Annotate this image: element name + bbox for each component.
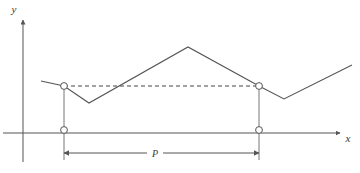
figure-canvas: y x P	[0, 0, 360, 173]
y-axis-label: y	[11, 3, 17, 15]
periodic-waveform-figure: y x P	[0, 0, 360, 173]
period-start-upper-marker	[61, 83, 68, 90]
periodic-waveform-line	[41, 47, 352, 103]
period-end-upper-marker	[256, 83, 263, 90]
period-start-axis-marker	[61, 127, 68, 134]
x-axis-label: x	[345, 132, 351, 144]
period-end-axis-marker	[256, 127, 263, 134]
period-label: P	[151, 148, 158, 159]
